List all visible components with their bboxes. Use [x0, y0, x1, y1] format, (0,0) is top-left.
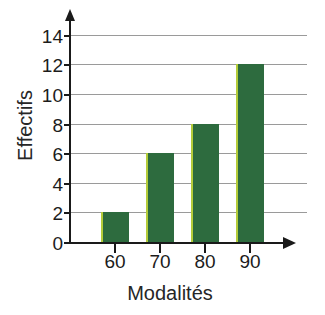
y-axis-tick-mark [64, 153, 71, 155]
gridline [71, 94, 307, 95]
y-axis-tick-label: 4 [33, 174, 63, 193]
bar [191, 124, 219, 242]
y-axis-tick-mark [64, 124, 71, 126]
x-axis-line [69, 242, 285, 244]
y-axis-tick-mark [64, 35, 71, 37]
y-axis-tick-label: 14 [33, 26, 63, 45]
x-axis-tick-label: 60 [93, 252, 137, 271]
bar-chart-figure: Effectifs 02468101214 60708090 Modalités [0, 0, 325, 315]
x-axis-tick-labels: 60708090 [69, 252, 307, 278]
y-axis-tick-label: 12 [33, 56, 63, 75]
y-axis-tick-mark [64, 64, 71, 66]
y-axis-tick-mark [64, 183, 71, 185]
x-axis-arrow-icon [283, 237, 296, 249]
y-axis-tick-label: 6 [33, 145, 63, 164]
y-axis-tick-mark [64, 242, 71, 244]
bar [101, 212, 129, 242]
gridline [71, 35, 307, 36]
gridline [71, 153, 307, 154]
plot-area [69, 20, 307, 244]
bar [146, 153, 174, 242]
x-axis-title: Modalités [60, 282, 280, 305]
x-axis-tick-label: 90 [228, 252, 272, 271]
bar [236, 64, 264, 242]
y-axis-tick-label: 2 [33, 204, 63, 223]
y-axis-line [69, 20, 71, 244]
y-axis-tick-mark [64, 212, 71, 214]
y-axis-tick-label: 0 [33, 234, 63, 253]
gridline [71, 64, 307, 65]
gridline [71, 183, 307, 184]
x-axis-tick-label: 80 [183, 252, 227, 271]
y-axis-tick-mark [64, 94, 71, 96]
y-axis-tick-label: 8 [33, 115, 63, 134]
x-axis-tick-label: 70 [138, 252, 182, 271]
y-axis-tick-label: 10 [33, 86, 63, 105]
y-axis-arrow-icon [65, 9, 75, 21]
y-axis-tick-labels: 02468101214 [33, 0, 63, 315]
gridline [71, 124, 307, 125]
